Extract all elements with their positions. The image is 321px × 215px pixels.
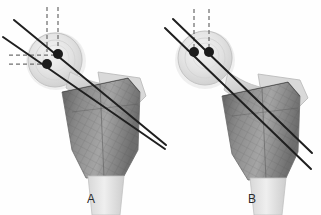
figure-container: A B bbox=[0, 0, 321, 215]
marker-medial-b bbox=[204, 47, 214, 57]
femoral-head-b bbox=[178, 31, 232, 85]
panel-b bbox=[0, 0, 321, 215]
marker-lateral-b bbox=[189, 47, 199, 57]
panel-a-label: A bbox=[87, 192, 95, 206]
panel-b-label: B bbox=[248, 192, 256, 206]
